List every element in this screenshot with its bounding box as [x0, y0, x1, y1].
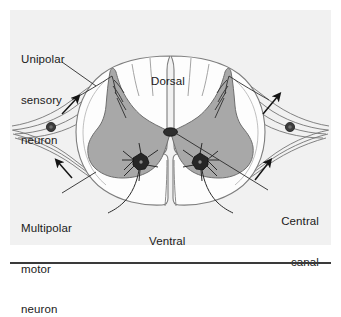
- figure-panel: Unipolar sensory neuron Multipolar motor…: [10, 10, 331, 245]
- label-multipolar-line1: Multipolar: [21, 222, 72, 236]
- label-multipolar-line3: neuron: [21, 303, 72, 317]
- label-unipolar-line3: neuron: [21, 134, 65, 148]
- label-central-canal-line1: Central: [281, 215, 319, 229]
- central-canal: [164, 128, 178, 136]
- label-dorsal-text: Dorsal: [151, 75, 185, 89]
- label-dorsal: Dorsal: [151, 48, 185, 116]
- label-unipolar-sensory-neuron: Unipolar sensory neuron: [21, 26, 65, 175]
- label-multipolar-line2: motor: [21, 263, 72, 277]
- unipolar-label-leader-line: [62, 62, 96, 86]
- label-unipolar-line2: sensory: [21, 94, 65, 108]
- label-unipolar-line1: Unipolar: [21, 53, 65, 67]
- label-ventral-text: Ventral: [149, 235, 186, 249]
- dorsal-root-ganglion-right: [285, 122, 294, 131]
- multipolar-label-leader-line: [62, 172, 96, 193]
- label-central-canal: Central canal: [281, 188, 319, 296]
- bottom-separator-rule: [10, 262, 331, 264]
- label-ventral: Ventral: [149, 208, 186, 276]
- label-multipolar-motor-neuron: Multipolar motor neuron: [21, 195, 72, 317]
